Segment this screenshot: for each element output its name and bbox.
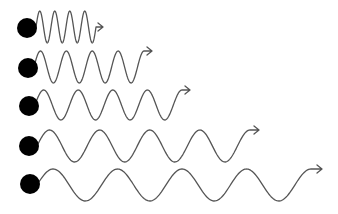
wave-row-1: [17, 11, 103, 43]
wave-source-dot-icon: [17, 18, 37, 38]
wave-arrow-icon: [37, 165, 322, 201]
wave-row-5: [20, 165, 322, 201]
wave-source-dot-icon: [18, 58, 38, 78]
wave-source-dot-icon: [19, 96, 39, 116]
wave-arrow-icon: [37, 126, 259, 162]
wave-row-3: [19, 86, 190, 120]
wave-source-dot-icon: [20, 174, 40, 194]
wave-row-4: [19, 126, 259, 162]
wave-arrow-icon: [36, 11, 103, 43]
wave-arrow-icon: [34, 47, 152, 83]
wave-diagram: [0, 0, 338, 214]
wave-source-dot-icon: [19, 136, 39, 156]
wave-row-2: [18, 47, 152, 83]
wave-arrow-icon: [35, 86, 190, 120]
